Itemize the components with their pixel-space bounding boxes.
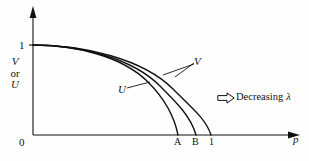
plot-canvas [0, 0, 309, 161]
x-axis-tick-label-a: A [174, 137, 181, 147]
y-axis-tick-label-one: 1 [19, 40, 25, 51]
annotation-lambda-symbol: λ [283, 91, 291, 102]
origin-label: 0 [19, 137, 25, 148]
leader-line-u [127, 82, 150, 88]
y-axis-label-line3: U [4, 79, 26, 91]
hollow-right-arrow-icon [217, 92, 235, 104]
y-axis-label: V or U [4, 56, 26, 91]
leader-line-v-2 [163, 64, 194, 75]
decreasing-lambda-annotation: Decreasingλ [236, 92, 291, 103]
curve-v-inner [33, 45, 196, 135]
y-axis-arrowhead [30, 6, 37, 18]
curve-label-u: U [118, 84, 126, 95]
y-axis-label-line1: V [4, 56, 26, 68]
annotation-text: Decreasing [236, 91, 283, 102]
x-axis-tick-label-b: B [192, 137, 199, 147]
figure-container: V or U 1 0 A B 1 p V U Decreasingλ [0, 0, 309, 161]
curve-u [33, 45, 178, 135]
x-axis-label: p [293, 134, 299, 145]
curve-label-v: V [194, 56, 201, 67]
x-axis-tick-label-one: 1 [209, 137, 214, 147]
